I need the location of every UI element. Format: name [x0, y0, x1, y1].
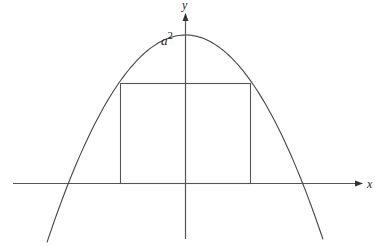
x-axis-label: x	[366, 177, 373, 191]
diagram-canvas: x y a2	[0, 0, 382, 246]
vertex-label-exponent: 2	[168, 29, 174, 41]
y-axis-label: y	[181, 0, 188, 12]
vertex-label: a2	[161, 29, 173, 48]
